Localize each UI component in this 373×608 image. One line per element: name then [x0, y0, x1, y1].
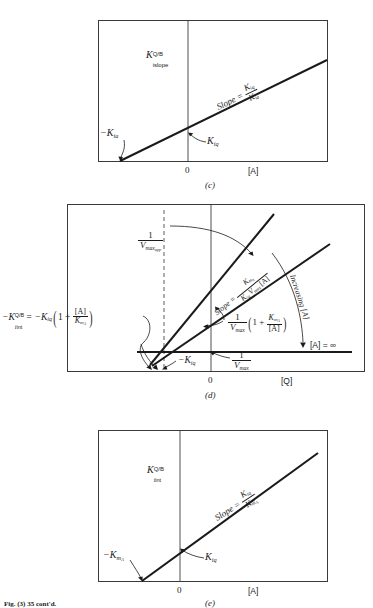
- panel-c-y-intercept-label: K Q/B islope: [146, 50, 153, 60]
- panel-d-invvmax-den: Vmax: [232, 361, 251, 371]
- panel-e-axis-crossing-label: Kiq: [205, 552, 217, 563]
- panel-d-intercept-eq: = −K: [26, 312, 48, 322]
- panel-d-infinity-label: [A] = ∞: [310, 341, 336, 350]
- panel-c-y-intercept-sup: Q/B: [153, 51, 163, 57]
- figure-caption: Fig. (3) 35 cont'd.: [4, 600, 56, 608]
- panel-d-intercept-sub: iint: [15, 324, 22, 331]
- panel-d-one-plus: 1 +: [253, 317, 265, 327]
- panel-d-arrow-invvmax: [212, 353, 230, 359]
- panel-c-origin-label: 0: [185, 165, 190, 175]
- panel-c-letter: (c): [205, 180, 215, 190]
- panel-e-y-intercept-sup: Q/B: [154, 466, 164, 472]
- panel-e-letter: (e): [205, 598, 215, 608]
- panel-c-axis-crossing-label: Kiq: [207, 136, 219, 147]
- panel-e-x-axis-label: [A]: [248, 586, 258, 596]
- panel-e-arrow-kma: [130, 560, 142, 579]
- panel-e-arrow-kiq: [182, 550, 204, 558]
- panel-e-y-intercept-label: K Q/B iint: [147, 465, 154, 475]
- panel-d-x-axis-label: [Q]: [281, 376, 292, 386]
- panel-d-brace-upper: [143, 316, 150, 342]
- panel-e-arrowhead-kma: [138, 576, 143, 581]
- panel-e: K Q/B iint Slope = Kiq KmA −KmA Kiq 0 [A…: [0, 412, 373, 606]
- panel-e-y-intercept-sub: iint: [154, 477, 161, 484]
- panel-d-vmaxapp-den: Vmaxapp: [138, 241, 163, 252]
- panel-d-intercept-sup: Q/B: [15, 313, 24, 319]
- panel-d: 1 Vmaxapp Slope = KmA Kiq Vmax [A] Incre…: [0, 196, 373, 392]
- panel-e-origin-label: 0: [177, 585, 182, 595]
- panel-d-arrowhead-negkiq: [162, 365, 167, 369]
- panel-d-vert-expr: 1 Vmax (1 + KmA [A] ): [228, 313, 287, 333]
- panel-d-letter: (d): [205, 390, 216, 400]
- panel-c-left-intercept-label: −Kia: [100, 128, 118, 139]
- panel-c-arrow-kiq: [190, 134, 207, 143]
- panel-d-vert-frac-den: [A]: [267, 325, 282, 333]
- panel-d-vert-den: Vmax: [228, 323, 247, 333]
- panel-c: K Q/B islope Slope = Kiq Kia −Kia Kiq 0 …: [0, 0, 373, 196]
- panel-e-graphics: [0, 412, 373, 606]
- panel-d-expr-frac-den: KmA: [73, 317, 88, 327]
- panel-d-expr-one-plus: 1 +: [58, 312, 70, 322]
- panel-d-paren-open: (: [248, 315, 251, 332]
- panel-d-expr-paren-open: (: [53, 309, 56, 327]
- panel-d-vmaxapp-label: 1 Vmaxapp: [138, 231, 163, 252]
- panel-d-invvmax-label: 1 Vmax: [232, 351, 251, 371]
- panel-d-paren-close: ): [283, 315, 286, 332]
- panel-d-vert-frac-num: KmA: [267, 314, 282, 325]
- panel-d-negkiq-label: −Kiq: [178, 356, 195, 367]
- panel-c-y-intercept-sub: islope: [153, 62, 169, 68]
- panel-d-expr-paren-close: ): [89, 309, 92, 327]
- panel-c-arrow-kia: [121, 140, 125, 159]
- panel-e-left-intercept-label: −KmA: [103, 550, 124, 563]
- panel-c-x-axis-label: [A]: [248, 166, 258, 176]
- panel-d-arrowhead-increasing: [300, 342, 306, 348]
- panel-d-intercept-expression: −K Q/B iint = −Kiq(1 + [A] KmA ): [2, 308, 94, 327]
- panel-d-origin-label: 0: [208, 375, 213, 385]
